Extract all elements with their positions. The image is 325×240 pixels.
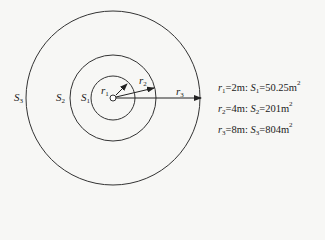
center-point: [110, 95, 116, 101]
label-r1: r1: [101, 85, 109, 98]
label-r3: r3: [176, 86, 184, 99]
label-s2: S2: [56, 92, 65, 105]
label-s1: S1: [81, 92, 90, 105]
radius-area-legend: r1=2m: S1=50.25m2 r2=4m: S2=201m2 r3=8m:…: [218, 82, 300, 145]
label-s3: S3: [14, 92, 23, 105]
legend-row-3: r3=8m: S3=804m2: [218, 124, 300, 145]
radius-r1-arrow: [116, 84, 127, 95]
label-r2: r2: [139, 75, 147, 88]
